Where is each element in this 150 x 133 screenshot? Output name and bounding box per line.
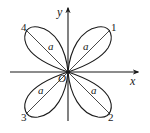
petal-4-segment xyxy=(26,30,68,72)
y-axis-label: y xyxy=(57,6,62,18)
petal-4-label: 4 xyxy=(21,22,27,33)
petal-1-label: 1 xyxy=(111,22,117,33)
petal-3-segment-label: a xyxy=(38,85,44,96)
petal-2-segment xyxy=(68,72,110,114)
x-axis-label: x xyxy=(130,75,135,87)
petal-3-label: 3 xyxy=(21,112,27,123)
petal-1-segment-label: a xyxy=(83,41,89,52)
petal-1-segment xyxy=(68,30,110,72)
petal-2 xyxy=(68,72,111,117)
origin-label: O xyxy=(58,73,66,84)
petal-2-label: 2 xyxy=(108,112,114,123)
petal-1 xyxy=(68,27,111,72)
petal-2-segment-label: a xyxy=(91,85,97,96)
petal-4-segment-label: a xyxy=(48,41,54,52)
petal-4 xyxy=(25,27,68,72)
